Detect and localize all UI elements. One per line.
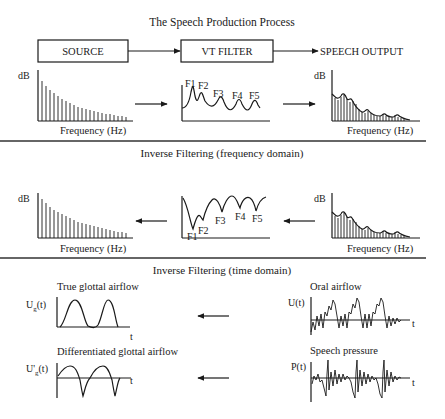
x-axis-label: t bbox=[130, 375, 133, 386]
diagram-title: The Speech Production Process bbox=[149, 16, 295, 29]
formant-label-f5: F5 bbox=[252, 213, 263, 224]
x-axis-label: Frequency (Hz) bbox=[60, 125, 127, 137]
inverse-filter-plot: F1 F2 F3 F4 F5 bbox=[182, 196, 270, 242]
speech-spectrum-plot: dB Frequency (Hz) bbox=[314, 193, 420, 255]
source-label: SOURCE bbox=[62, 46, 103, 57]
differentiated-glottal-airflow-plot: Differentiated glottal airflow U'g(t) t bbox=[26, 346, 179, 398]
y-axis-label: dB bbox=[18, 70, 30, 81]
y-axis-label: U(t) bbox=[288, 297, 305, 309]
formant-label-f3: F3 bbox=[215, 215, 226, 226]
harmonic-lines bbox=[42, 81, 126, 121]
x-axis-label: t bbox=[412, 318, 415, 329]
true-glottal-airflow-plot: True glottal airflow Ug(t) t bbox=[26, 281, 139, 342]
freq-inverse-title: Inverse Filtering (frequency domain) bbox=[141, 147, 304, 160]
plot-title: Oral airflow bbox=[310, 281, 362, 292]
vt-filter-box: VT FILTER bbox=[181, 40, 273, 62]
y-axis-label: dB bbox=[314, 70, 326, 81]
y-axis-label: dB bbox=[314, 193, 326, 204]
y-axis-label: dB bbox=[18, 193, 30, 204]
formant-label-f1: F1 bbox=[187, 231, 198, 242]
time-inverse-title: Inverse Filtering (time domain) bbox=[153, 264, 292, 277]
vt-filter-response-plot: F1 F2 F3 F4 F5 bbox=[182, 78, 270, 121]
plot-title: Speech pressure bbox=[310, 345, 378, 356]
formant-label-f3: F3 bbox=[213, 88, 224, 99]
x-axis-label: t bbox=[130, 331, 133, 342]
speech-pressure-plot: Speech pressure P(t) t bbox=[291, 345, 415, 402]
vt-filter-label: VT FILTER bbox=[201, 46, 252, 57]
formant-label-f4: F4 bbox=[235, 211, 246, 222]
plot-title: Differentiated glottal airflow bbox=[57, 346, 179, 357]
x-axis-label: Frequency (Hz) bbox=[347, 243, 414, 255]
x-axis-label: t bbox=[412, 377, 415, 388]
source-spectrum-plot: dB Frequency (Hz) bbox=[18, 70, 133, 137]
source-box: SOURCE bbox=[38, 40, 128, 62]
speech-production-diagram: The Speech Production Process SOURCE VT … bbox=[0, 0, 445, 419]
oral-airflow-plot: Oral airflow U(t) t bbox=[288, 281, 415, 335]
x-axis-label: Frequency (Hz) bbox=[347, 125, 414, 137]
output-spectrum-plot: dB Frequency (Hz) bbox=[314, 70, 420, 137]
recovered-source-spectrum-plot: dB Frequency (Hz) bbox=[18, 193, 133, 255]
formant-label-f4: F4 bbox=[232, 90, 243, 101]
formant-label-f2: F2 bbox=[198, 80, 209, 91]
formant-label-f2: F2 bbox=[198, 225, 209, 236]
x-axis-label: Frequency (Hz) bbox=[60, 243, 127, 255]
plot-title: True glottal airflow bbox=[57, 281, 139, 292]
formant-label-f1: F1 bbox=[185, 78, 196, 89]
y-axis-label: Ug(t) bbox=[26, 299, 46, 313]
y-axis-label: P(t) bbox=[291, 361, 306, 373]
speech-output-label: SPEECH OUTPUT bbox=[320, 46, 404, 57]
y-axis-label: U'g(t) bbox=[26, 363, 48, 377]
formant-label-f5: F5 bbox=[249, 90, 260, 101]
